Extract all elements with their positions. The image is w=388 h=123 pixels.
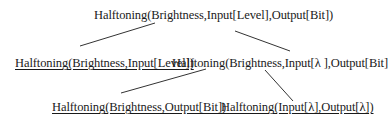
edge-right1-left2 [121, 69, 206, 93]
node-left2: Halftoning(Brightness,Output[Bit]) [52, 100, 226, 114]
node-left1: Halftoning(Brightness,Input[Level]) [15, 56, 194, 70]
node-right1: Halftoning(Brightness,Input[λ ],Output[B… [172, 56, 388, 70]
edge-root-left1 [80, 23, 155, 46]
edge-root-right1 [235, 31, 290, 51]
edge-right1-right2 [265, 70, 293, 101]
node-right2: Halftoning(Input[λ],Output[λ]) [221, 100, 374, 114]
node-root: Halftoning(Brightness,Input[Level],Outpu… [94, 8, 333, 22]
